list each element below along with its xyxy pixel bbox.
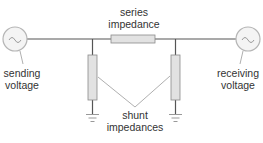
receiving-voltage-source [236, 27, 260, 51]
receiving-voltage-label: receiving voltage [213, 67, 263, 91]
sending-voltage-label: sending voltage [0, 67, 44, 91]
shunt-impedances-label: shunt impedances [103, 109, 167, 133]
shunt-impedance-right [171, 55, 180, 100]
leader-lines [20, 51, 243, 107]
sending-voltage-source [3, 27, 27, 51]
series-impedance [111, 35, 155, 43]
main-conductor [27, 39, 236, 114]
ground-icon-left [86, 115, 99, 122]
shunt-impedance-left [88, 55, 97, 100]
series-impedance-label: series impedance [107, 6, 161, 30]
ground-icon-right [169, 115, 182, 122]
